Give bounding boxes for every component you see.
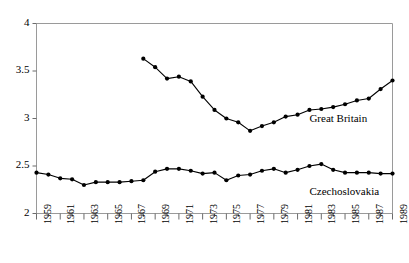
data-point-marker <box>177 167 181 171</box>
x-axis-tick-label: 1977 <box>255 204 266 224</box>
data-point-marker <box>272 120 276 124</box>
data-point-marker <box>319 162 323 166</box>
y-axis-tick-label: 2 <box>24 206 30 218</box>
data-point-marker <box>379 87 383 91</box>
data-point-marker <box>367 96 371 100</box>
data-point-marker <box>331 168 335 172</box>
x-axis-tick-label: 1985 <box>350 204 361 224</box>
data-point-marker <box>284 171 288 175</box>
series-annotation-label: Czechoslovakia <box>309 185 379 197</box>
data-point-marker <box>177 75 181 79</box>
y-axis-tick-label: 3.5 <box>16 63 30 75</box>
data-point-marker <box>260 124 264 128</box>
data-point-marker <box>355 171 359 175</box>
data-point-marker <box>260 169 264 173</box>
data-point-marker <box>58 176 62 180</box>
data-point-marker <box>379 172 383 176</box>
x-axis-tick-label: 1975 <box>231 204 242 224</box>
data-point-marker <box>307 164 311 168</box>
data-point-marker <box>70 177 74 181</box>
data-point-marker <box>34 171 38 175</box>
data-point-marker <box>82 183 86 187</box>
data-point-marker <box>284 115 288 119</box>
data-point-marker <box>248 172 252 176</box>
data-point-marker <box>165 167 169 171</box>
data-point-marker <box>201 172 205 176</box>
data-point-marker <box>390 78 394 82</box>
data-point-marker <box>201 95 205 99</box>
data-point-marker <box>153 65 157 69</box>
x-axis-tick-label: 1969 <box>160 204 171 224</box>
y-axis-tick-label: 2.5 <box>16 158 30 170</box>
data-point-marker <box>212 108 216 112</box>
data-point-marker <box>117 180 121 184</box>
x-axis-tick-label: 1983 <box>326 204 337 224</box>
data-point-marker <box>390 172 394 176</box>
data-point-marker <box>94 180 98 184</box>
x-axis-tick-label: 1971 <box>184 204 195 224</box>
data-point-marker <box>212 171 216 175</box>
data-point-marker <box>189 169 193 173</box>
x-axis-tick-label: 1961 <box>65 204 76 224</box>
data-point-marker <box>129 179 133 183</box>
x-axis-tick-label: 1981 <box>303 204 314 224</box>
data-point-marker <box>331 105 335 109</box>
x-axis-tick-label: 1979 <box>279 204 290 224</box>
data-point-marker <box>141 57 145 61</box>
x-axis-tick-label: 1959 <box>42 204 53 224</box>
data-point-marker <box>153 170 157 174</box>
x-axis-tick-label: 1973 <box>208 204 219 224</box>
data-point-marker <box>236 120 240 124</box>
data-point-marker <box>106 180 110 184</box>
data-point-marker <box>46 172 50 176</box>
data-point-marker <box>165 77 169 81</box>
data-point-marker <box>224 116 228 120</box>
y-axis-tick-label: 3 <box>24 111 30 123</box>
x-axis-tick-label: 1989 <box>398 204 409 224</box>
data-point-marker <box>224 178 228 182</box>
data-point-marker <box>295 113 299 117</box>
data-point-marker <box>367 171 371 175</box>
data-point-marker <box>248 129 252 133</box>
data-point-marker <box>319 107 323 111</box>
data-point-marker <box>343 102 347 106</box>
data-point-marker <box>343 171 347 175</box>
data-point-marker <box>236 173 240 177</box>
data-point-marker <box>295 168 299 172</box>
data-point-marker <box>189 79 193 83</box>
series-annotation-label: Great Britain <box>309 112 367 124</box>
x-axis-tick-label: 1963 <box>89 204 100 224</box>
x-axis-tick-label: 1967 <box>136 204 147 224</box>
data-point-marker <box>272 167 276 171</box>
x-axis-tick-label: 1965 <box>113 204 124 224</box>
y-axis-tick-label: 4 <box>24 16 30 28</box>
x-axis-tick-label: 1987 <box>374 204 385 224</box>
data-point-marker <box>141 178 145 182</box>
data-point-marker <box>355 98 359 102</box>
